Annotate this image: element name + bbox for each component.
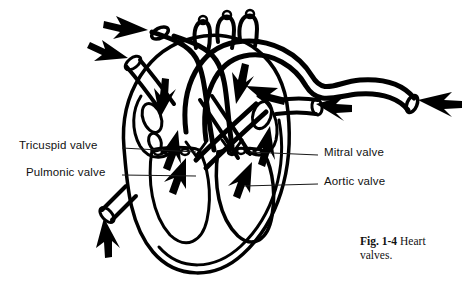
heart-valves-figure: .ink { fill: none; stroke: #000000; stro… [0,0,464,291]
label-pulmonic-valve: Pulmonic valve [26,167,105,179]
aorta-group [185,41,420,140]
figure-number: Fig. 1-4 [360,235,397,247]
label-tricuspid-valve: Tricuspid valve [19,140,98,152]
label-mitral-valve: Mitral valve [324,147,384,159]
leader-line-aortic [244,184,318,186]
figure-caption: Fig. 1-4Heart valves. [360,234,460,262]
label-aortic-valve: Aortic valve [324,176,385,188]
flow-arrows-group [87,16,462,258]
